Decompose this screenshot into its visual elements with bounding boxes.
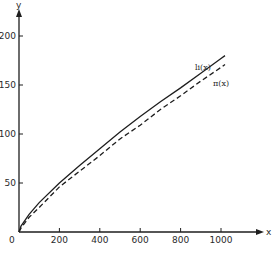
x-tick-label: 800 [172,235,189,245]
series-lines [19,56,225,232]
axes: x y 0 [9,0,272,245]
y-tick-label: 100 [0,129,16,139]
series-line-pi [19,64,225,232]
y-axis-label: y [16,0,22,10]
x-tick-label: 600 [132,235,149,245]
x-tick-label: 400 [91,235,108,245]
x-ticks: 2004006008001000 [51,228,233,245]
series-label-li: li(x) [195,63,211,72]
y-tick-label: 150 [0,80,16,90]
y-axis-arrow-icon [16,9,22,17]
chart-canvas: x y 0 2004006008001000 50100150200 li(x)… [0,0,273,256]
x-axis-arrow-icon [256,229,264,235]
x-tick-label: 1000 [210,235,233,245]
y-tick-label: 50 [5,178,17,188]
origin-label: 0 [9,235,15,245]
x-axis-label: x [266,227,272,237]
x-tick-label: 200 [51,235,68,245]
series-label-pi: π(x) [213,79,229,88]
y-tick-label: 200 [0,31,16,41]
series-line-li [19,56,225,232]
